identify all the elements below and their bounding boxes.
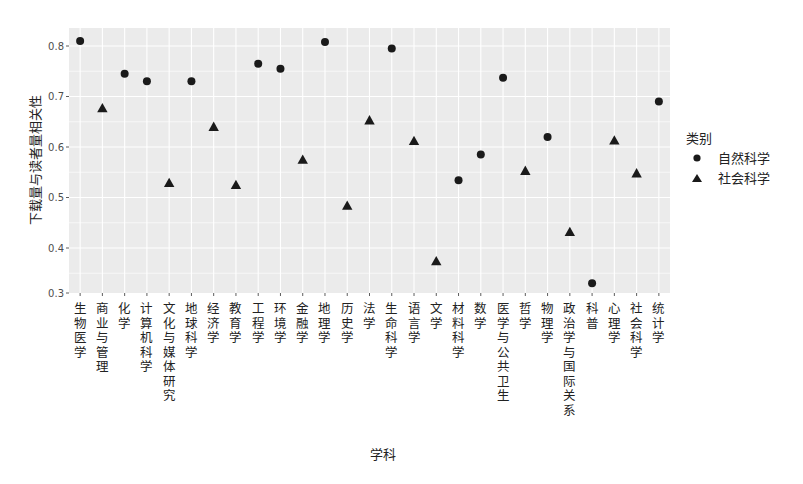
x-tick-label: 语言学 [408, 301, 421, 345]
x-tick-label: 教育学 [229, 301, 242, 345]
point-circle-icon [276, 65, 284, 73]
x-tick-label: 政治学与国际关系 [563, 301, 576, 418]
y-tick-label: 0.6 [48, 142, 64, 153]
point-circle-icon [76, 37, 84, 45]
x-tick-label: 物理学 [541, 301, 554, 345]
x-tick-label: 计算机科学 [140, 301, 153, 374]
y-axis: 0.30.40.50.60.70.8 [48, 41, 69, 299]
point-circle-icon [588, 279, 596, 287]
point-circle-icon [143, 77, 151, 85]
point-circle-icon [477, 151, 485, 159]
legend-circle-icon [693, 154, 700, 161]
y-axis-title: 下载量与读者量相关性 [28, 95, 43, 225]
y-tick-label: 0.4 [48, 243, 64, 254]
point-circle-icon [321, 38, 329, 46]
x-tick-label: 生命科学 [385, 301, 398, 360]
x-tick-label: 环境学 [274, 301, 287, 345]
x-tick-label: 历史学 [341, 301, 354, 345]
x-tick-label: 社会科学 [630, 301, 643, 360]
x-tick-label: 数学 [474, 301, 487, 331]
x-axis: 生物医学商业与管理化学计算机科学文化与媒体研究地球科学经济学教育学工程学环境学金… [74, 293, 666, 418]
legend-title: 类别 [686, 131, 712, 146]
point-circle-icon [455, 176, 463, 184]
point-circle-icon [544, 133, 552, 141]
point-circle-icon [121, 70, 129, 78]
x-tick-label: 金融学 [296, 301, 309, 345]
x-axis-title: 学科 [370, 447, 396, 462]
legend-label-social: 社会科学 [718, 171, 770, 186]
y-tick-label: 0.5 [48, 192, 64, 203]
x-tick-label: 工程学 [252, 301, 265, 345]
point-circle-icon [655, 98, 663, 106]
point-circle-icon [187, 77, 195, 85]
legend: 类别 自然科学 社会科学 [686, 131, 770, 186]
x-tick-label: 文化与媒体研究 [163, 301, 176, 403]
x-tick-label: 地理学 [318, 301, 331, 345]
x-tick-label: 化学 [118, 301, 131, 331]
x-tick-label: 科普 [586, 301, 599, 331]
x-tick-label: 统计学 [652, 301, 665, 345]
point-circle-icon [388, 45, 396, 53]
x-tick-label: 医学与公共卫生 [497, 301, 510, 403]
x-tick-label: 商业与管理 [96, 301, 109, 374]
x-tick-label: 文学 [430, 301, 443, 331]
x-tick-label: 哲学 [519, 301, 532, 331]
x-tick-label: 地球科学 [185, 301, 198, 360]
y-tick-label: 0.3 [48, 288, 64, 299]
x-tick-label: 法学 [363, 301, 376, 331]
legend-label-natural: 自然科学 [718, 151, 770, 166]
scatter-chart: 0.30.40.50.60.70.8 生物医学商业与管理化学计算机科学文化与媒体… [0, 0, 803, 484]
y-tick-label: 0.7 [48, 91, 64, 102]
point-circle-icon [499, 74, 507, 82]
x-tick-label: 经济学 [207, 301, 220, 345]
point-circle-icon [254, 60, 262, 68]
legend-triangle-icon [692, 174, 702, 182]
x-tick-label: 材料科学 [452, 301, 465, 360]
y-tick-label: 0.8 [48, 41, 64, 52]
x-tick-label: 生物医学 [74, 301, 87, 360]
x-tick-label: 心理学 [608, 301, 621, 345]
